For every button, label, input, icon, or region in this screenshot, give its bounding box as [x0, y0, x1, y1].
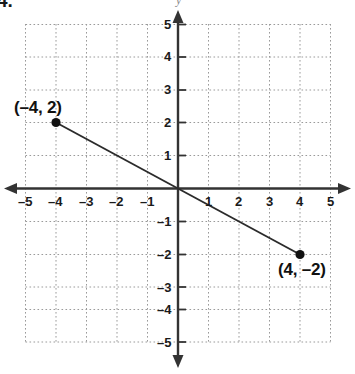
x-tick-label-neg2: –2 [109, 195, 123, 208]
x-tick-label-pos2: 2 [235, 195, 242, 208]
data-point-marker-left [51, 118, 60, 127]
data-point-marker-right [295, 250, 304, 259]
x-tick-label-neg5: –5 [18, 195, 32, 208]
graph-canvas [0, 0, 355, 374]
x-tick-label-pos3: 3 [266, 195, 273, 208]
y-tick-label-neg4: –4 [157, 303, 171, 316]
y-tick-label-neg2: –2 [157, 248, 171, 261]
x-tick-label-neg3: –3 [79, 195, 93, 208]
y-tick-label-neg3: –3 [157, 281, 171, 294]
x-tick-label-pos4: 4 [296, 195, 303, 208]
y-tick-label-pos3: 3 [164, 83, 171, 96]
x-tick-label-neg1: –1 [140, 195, 154, 208]
x-tick-label-neg4: –4 [48, 195, 62, 208]
y-tick-label-pos1: 1 [164, 149, 171, 162]
point-label-right: (4, –2) [278, 261, 326, 278]
point-label-left: (–4, 2) [14, 99, 62, 116]
y-tick-label-neg5: –5 [157, 336, 171, 349]
coordinate-plane-figure: 4. y [0, 0, 355, 374]
y-tick-label-neg1: –1 [157, 215, 171, 228]
x-tick-label-pos1: 1 [205, 195, 212, 208]
y-tick-label-pos2: 2 [164, 116, 171, 129]
y-tick-label-pos5: 5 [164, 18, 171, 31]
y-tick-label-pos4: 4 [164, 50, 171, 63]
x-tick-label-pos5: 5 [327, 195, 334, 208]
